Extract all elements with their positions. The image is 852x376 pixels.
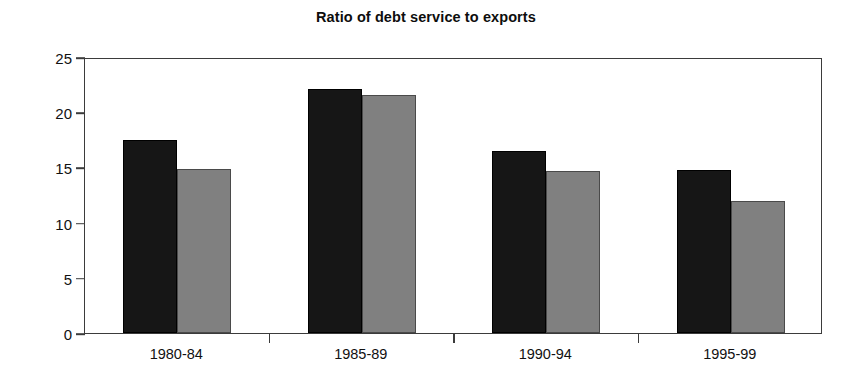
x-axis: 1980-841985-891990-941995-99: [84, 334, 822, 376]
x-axis-category-label: 1990-94: [519, 346, 572, 362]
y-axis-tick-label: 10: [12, 215, 72, 232]
x-axis-category-label: 1980-84: [150, 346, 203, 362]
plot-area: [84, 58, 822, 334]
y-axis-tick-label: 5: [12, 270, 72, 287]
bar-series-2-1995-99: [731, 201, 785, 333]
y-axis-tick-label: 20: [12, 105, 72, 122]
bar-series-2-1985-89: [362, 95, 416, 333]
x-axis-category-label: 1985-89: [334, 346, 387, 362]
bars-container: [85, 59, 821, 333]
bar-series-1-1985-89: [308, 89, 362, 333]
x-axis-category-label: 1995-99: [703, 346, 756, 362]
x-axis-separator-tick: [269, 334, 271, 343]
y-axis-tick-label: 0: [12, 326, 72, 343]
chart-title: Ratio of debt service to exports: [0, 9, 852, 25]
bar-series-2-1980-84: [177, 169, 231, 333]
chart-figure: Ratio of debt service to exports 0510152…: [0, 0, 852, 376]
bar-series-1-1995-99: [677, 170, 731, 333]
y-axis-tick-labels: 0510152025: [8, 58, 72, 334]
y-axis-tick-label: 25: [12, 50, 72, 67]
bar-series-1-1990-94: [492, 151, 546, 333]
y-axis-tick-label: 15: [12, 160, 72, 177]
x-axis-separator-tick: [638, 334, 640, 343]
bar-series-2-1990-94: [546, 171, 600, 333]
bar-series-1-1980-84: [123, 140, 177, 333]
x-axis-separator-tick: [453, 334, 455, 343]
